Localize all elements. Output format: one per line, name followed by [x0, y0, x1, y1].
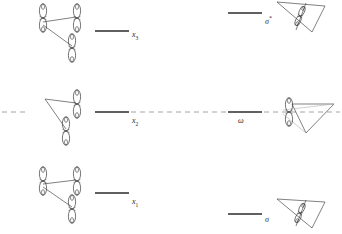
level-label-sigma-base: σ	[265, 215, 269, 224]
level-label-x2-subscript: 2	[136, 121, 139, 127]
x3-orbital-structure	[39, 4, 80, 63]
level-label-x3: x3	[132, 31, 138, 41]
diagram-canvas	[0, 0, 342, 234]
level-label-sigma-star: σ*	[265, 15, 272, 26]
level-label-x1: x1	[132, 198, 138, 208]
sigma-star-structure	[277, 2, 325, 32]
level-label-x1-subscript: 1	[136, 202, 139, 208]
level-label-x2: x2	[132, 117, 138, 127]
level-label-omega-base: ω	[238, 116, 244, 125]
level-label-sigma: σ	[265, 216, 269, 224]
sigma-structure	[277, 199, 325, 228]
mo-correlation-diagram: x3 x2 x1 σ* ω σ	[0, 0, 342, 234]
level-label-sigma-star-superscript: *	[269, 15, 272, 21]
level-label-omega: ω	[238, 117, 244, 125]
x2-orbital-structure	[45, 90, 81, 146]
omega-structure	[283, 98, 334, 133]
level-label-x3-subscript: 3	[136, 35, 139, 41]
x1-orbital-structure	[39, 167, 80, 224]
